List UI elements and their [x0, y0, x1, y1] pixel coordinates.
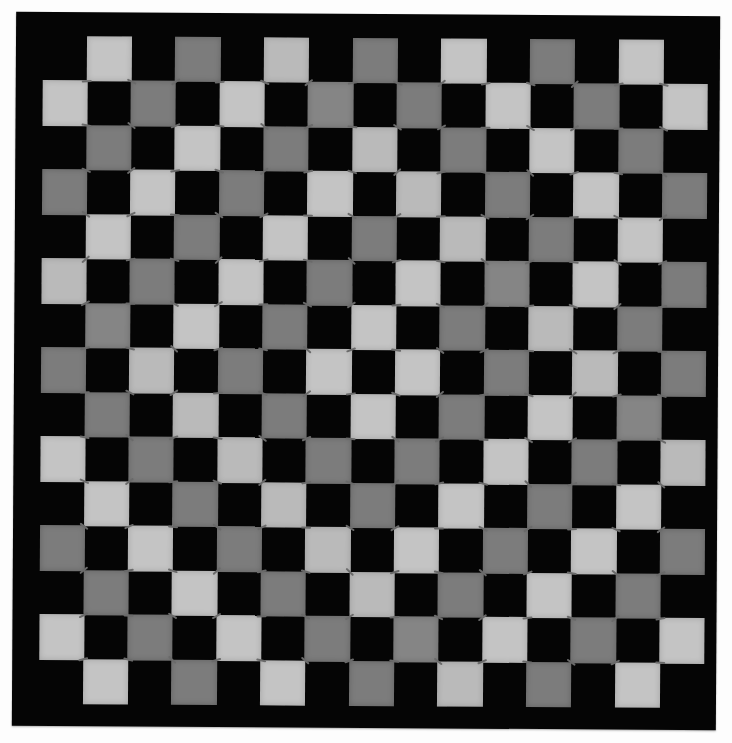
- dark-square: [218, 304, 264, 350]
- light-square: [619, 39, 665, 85]
- dark-square: [217, 393, 263, 439]
- light-square: [616, 484, 662, 530]
- dark-square: [572, 395, 618, 441]
- dark-square: [395, 394, 441, 440]
- dark-square: [394, 483, 440, 529]
- light-square: [218, 259, 264, 305]
- dark-square: [175, 81, 221, 127]
- yarn-tie: [434, 527, 444, 529]
- light-square: [172, 571, 218, 617]
- medium-square: [128, 437, 174, 483]
- medium-square: [173, 482, 219, 528]
- medium-square: [306, 438, 352, 484]
- dark-square: [530, 83, 576, 129]
- dark-square: [42, 125, 88, 171]
- light-square: [42, 80, 88, 126]
- medium-square: [526, 662, 572, 708]
- dark-square: [572, 484, 618, 530]
- light-square: [437, 661, 483, 707]
- light-square: [482, 617, 528, 663]
- medium-square: [39, 525, 85, 571]
- dark-square: [349, 616, 395, 662]
- light-square: [87, 36, 133, 82]
- dark-square: [130, 214, 176, 260]
- dark-square: [128, 481, 174, 527]
- medium-square: [83, 570, 129, 616]
- medium-square: [84, 392, 130, 438]
- light-square: [440, 216, 486, 262]
- dark-square: [662, 128, 708, 174]
- light-square: [529, 128, 575, 174]
- dark-square: [616, 529, 662, 575]
- light-square: [660, 440, 706, 486]
- dark-square: [483, 484, 529, 530]
- yarn-tie: [479, 438, 489, 440]
- dark-square: [616, 440, 662, 486]
- medium-square: [394, 438, 440, 484]
- dark-square: [440, 172, 486, 218]
- medium-square: [174, 214, 220, 260]
- dark-square: [441, 82, 487, 128]
- light-square: [350, 394, 396, 440]
- yarn-tie: [657, 350, 667, 352]
- medium-square: [263, 126, 309, 172]
- light-square: [349, 572, 395, 618]
- dark-square: [129, 303, 175, 349]
- quilt: [12, 12, 720, 730]
- dark-square: [306, 482, 352, 528]
- light-square: [261, 482, 307, 528]
- dark-square: [618, 84, 664, 130]
- dark-square: [173, 437, 219, 483]
- dark-square: [571, 573, 617, 619]
- dark-square: [573, 306, 619, 352]
- dark-square: [659, 663, 705, 709]
- medium-square: [85, 303, 131, 349]
- dark-square: [219, 126, 265, 172]
- dark-square: [529, 261, 575, 307]
- yarn-tie: [612, 439, 622, 441]
- dark-square: [172, 615, 218, 661]
- dark-square: [350, 527, 396, 573]
- light-square: [571, 529, 617, 575]
- light-square: [173, 393, 219, 439]
- light-square: [615, 662, 661, 708]
- dark-square: [662, 217, 708, 263]
- medium-square: [530, 38, 576, 84]
- dark-square: [86, 169, 132, 215]
- yarn-tie: [301, 526, 311, 528]
- medium-square: [617, 306, 663, 352]
- light-square: [528, 306, 574, 352]
- yarn-tie: [481, 127, 491, 129]
- yarn-tie: [303, 215, 313, 217]
- medium-square: [571, 618, 617, 664]
- light-square: [41, 258, 87, 304]
- medium-square: [527, 484, 573, 530]
- medium-square: [618, 128, 664, 174]
- dark-square: [486, 38, 532, 84]
- dark-square: [216, 571, 262, 617]
- medium-square: [661, 351, 707, 397]
- dark-square: [482, 662, 528, 708]
- light-square: [528, 395, 574, 441]
- light-square: [351, 305, 397, 351]
- dark-square: [483, 394, 529, 440]
- medium-square: [130, 259, 176, 305]
- light-square: [260, 660, 306, 706]
- light-square: [83, 659, 129, 705]
- light-square: [617, 217, 663, 263]
- medium-square: [616, 395, 662, 441]
- medium-square: [217, 526, 263, 572]
- medium-square: [305, 616, 351, 662]
- medium-square: [307, 260, 353, 306]
- light-square: [663, 84, 709, 130]
- dark-square: [350, 438, 396, 484]
- yarn-tie: [123, 614, 133, 616]
- medium-square: [572, 440, 618, 486]
- yarn-tie: [256, 615, 266, 617]
- dark-square: [570, 662, 616, 708]
- light-square: [307, 171, 353, 217]
- dark-square: [40, 481, 86, 527]
- light-square: [396, 260, 442, 306]
- dark-square: [127, 660, 173, 706]
- dark-square: [438, 617, 484, 663]
